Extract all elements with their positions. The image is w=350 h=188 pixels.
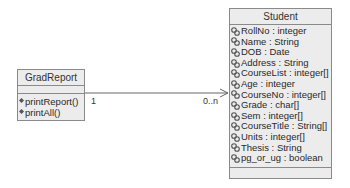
operation-icon bbox=[19, 98, 24, 103]
attributes-section: RollNo : integer Name : String DOB : Dat… bbox=[230, 25, 331, 168]
attribute-icon bbox=[231, 59, 240, 68]
class-name: GradReport bbox=[18, 70, 84, 86]
attribute-icon bbox=[231, 154, 240, 163]
operation-row: printAll() bbox=[18, 108, 84, 119]
attribute-icon bbox=[231, 112, 240, 121]
attributes-section bbox=[18, 86, 84, 94]
attribute-row: Units : integer[] bbox=[230, 132, 331, 143]
multiplicity-student: 0..n bbox=[203, 96, 218, 106]
attribute-icon bbox=[231, 143, 240, 152]
attribute-icon bbox=[231, 80, 240, 89]
attribute-icon bbox=[231, 27, 240, 36]
class-student[interactable]: Student RollNo : integer Name : String D… bbox=[229, 8, 332, 179]
attribute-icon bbox=[231, 37, 240, 46]
operations-section bbox=[230, 168, 331, 175]
class-name: Student bbox=[230, 9, 331, 25]
attribute-row: Age : integer bbox=[230, 79, 331, 90]
attribute-icon bbox=[231, 101, 240, 110]
attribute-row: pg_or_ug : boolean bbox=[230, 153, 331, 164]
attribute-icon bbox=[231, 69, 240, 78]
multiplicity-gradreport: 1 bbox=[91, 96, 96, 106]
attribute-icon bbox=[231, 90, 240, 99]
attribute-row: RollNo : integer bbox=[230, 26, 331, 37]
class-gradreport[interactable]: GradReport printReport() printAll() bbox=[17, 69, 85, 121]
attribute-icon bbox=[231, 122, 240, 131]
operation-row: printReport() bbox=[18, 97, 84, 108]
attribute-icon bbox=[231, 48, 240, 57]
operation-icon bbox=[19, 109, 24, 114]
attribute-icon bbox=[231, 133, 240, 142]
operations-section: printReport() printAll() bbox=[18, 94, 84, 118]
